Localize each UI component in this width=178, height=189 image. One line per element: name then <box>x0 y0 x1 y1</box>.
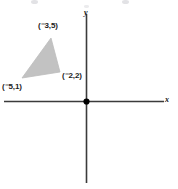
origin-point <box>83 98 89 104</box>
vertex-label-top: (⁻3,5) <box>38 22 58 30</box>
plot-area <box>0 0 178 189</box>
vertex-label-left: (⁻5,1) <box>2 83 22 91</box>
coordinate-plane-figure: (⁻3,5) (⁻2,2) (⁻5,1) x y <box>0 0 178 189</box>
y-axis-label: y <box>84 9 88 17</box>
vertex-label-right: (⁻2,2) <box>62 72 82 80</box>
x-axis-label: x <box>165 96 169 104</box>
triangle-shape <box>22 38 60 78</box>
